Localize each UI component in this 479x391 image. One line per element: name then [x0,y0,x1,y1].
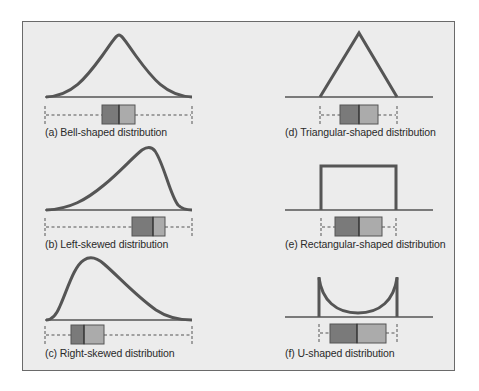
panel-e-rectangular [285,166,433,236]
caption-b: (b) Left-skewed distribution [45,238,168,250]
caption-f: (f) U-shaped distribution [285,347,395,359]
panel-f-u-shaped [285,277,433,343]
caption-e: (e) Rectangular-shaped distribution [285,238,446,250]
caption-c: (c) Right-skewed distribution [45,347,175,359]
caption-a: (a) Bell-shaped distribution [45,126,167,138]
caption-d: (d) Triangular-shaped distribution [285,126,436,138]
panel-c-right-skewed [45,258,192,344]
panel-d-triangular [285,33,433,124]
panel-a-bell [45,35,192,124]
panel-b-left-skewed [45,147,192,236]
distribution-shapes-figure [0,0,479,391]
